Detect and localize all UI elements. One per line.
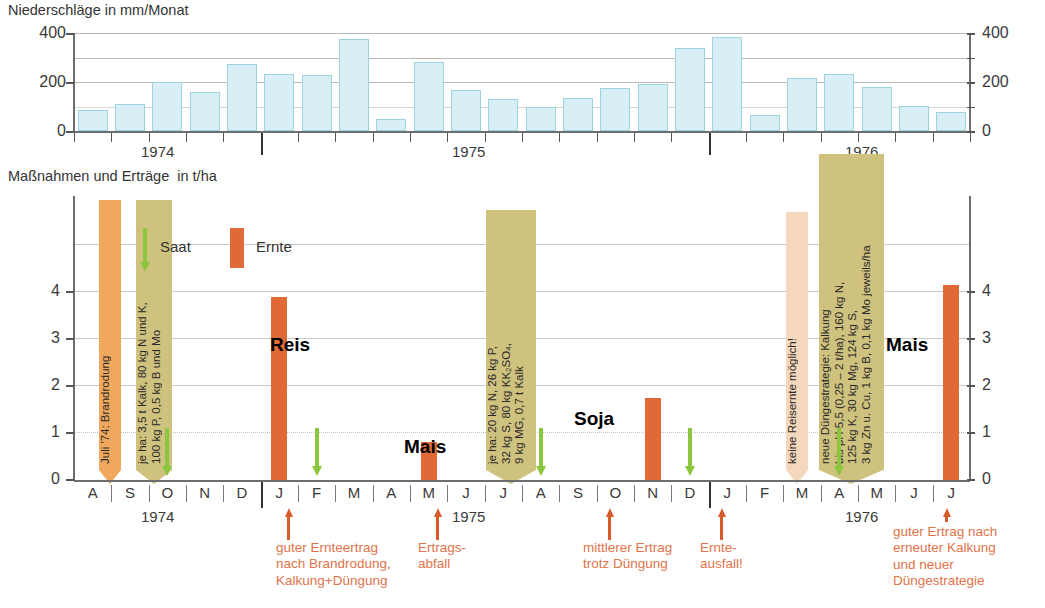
- precip-tick-300: [967, 58, 975, 60]
- precip-month-tick: [111, 133, 112, 142]
- banner-text-line: je ha: 20 kg N, 26 kg P,: [486, 216, 500, 464]
- callout-4: Ernte-ausfall!: [700, 540, 743, 573]
- banner-text-line: bis pH 5,5 (0,25 – 2 t/ha), 160 kg N,: [833, 160, 847, 464]
- callout-arrow-icon-3: [606, 508, 615, 540]
- precip-month-tick: [186, 133, 187, 142]
- yield-ytick-0-left: 0: [10, 470, 60, 488]
- month-separator: [298, 485, 299, 502]
- harvest-bar-mais: [943, 285, 959, 480]
- month-label-22: J: [895, 484, 932, 501]
- banner-text: keine Reisernte möglich!: [786, 218, 808, 464]
- precipitation-bar: [376, 119, 406, 131]
- month-label-0: A: [74, 484, 111, 501]
- month-separator: [447, 485, 448, 502]
- callout-3: mittlerer Ertragtrotz Düngung: [583, 540, 672, 573]
- callout-arrow-icon-2: [434, 508, 443, 540]
- precip-month-tick: [149, 133, 150, 142]
- precip-tick-200: [967, 82, 975, 84]
- yield-ytick-4-left: 4: [10, 282, 60, 300]
- precipitation-chart-title: Niederschläge in mm/Monat: [8, 2, 189, 18]
- seeding-arrow-icon: [834, 428, 844, 476]
- month-separator: [559, 485, 560, 502]
- precip-month-tick: [783, 133, 784, 142]
- precip-month-tick: [335, 133, 336, 142]
- month-separator: [746, 485, 747, 502]
- precipitation-bar: [563, 98, 593, 131]
- month-label-6: F: [298, 484, 335, 501]
- month-label-7: M: [335, 484, 372, 501]
- precip-month-tick: [895, 133, 896, 142]
- month-separator: [783, 485, 784, 502]
- yield-ytick-2-right: 2: [982, 376, 991, 394]
- month-label-9: M: [410, 484, 447, 501]
- precip-month-tick: [298, 133, 299, 142]
- year-divider-1975-1976: [709, 482, 711, 508]
- precip-month-tick: [373, 133, 374, 142]
- yield-year-1974: 1974: [141, 508, 174, 525]
- month-separator: [671, 485, 672, 502]
- precip-ytick-400-right: 400: [982, 24, 1009, 42]
- month-label-10: J: [447, 484, 484, 501]
- month-label-15: N: [634, 484, 671, 501]
- year-divider-1975-1976-top: [709, 133, 711, 155]
- precip-month-tick: [223, 133, 224, 142]
- precip-month-tick: [597, 133, 598, 142]
- precip-month-tick: [634, 133, 635, 142]
- precip-ytick-400-left: 400: [10, 24, 66, 42]
- callout-line: guter Ertrag nach: [893, 524, 997, 540]
- precip-tick-100: [967, 107, 975, 109]
- precip-month-tick: [821, 133, 822, 142]
- precip-month-tick: [522, 133, 523, 142]
- precip-month-tick: [410, 133, 411, 142]
- precipitation-bar: [152, 82, 182, 131]
- yield-ytick-2-left: 2: [10, 376, 60, 394]
- measure-banner-neue-duengestrategie: neue Düngestrategie: Kalkungbis pH 5,5 (…: [819, 154, 884, 484]
- precipitation-bar: [115, 104, 145, 131]
- month-label-2: O: [149, 484, 186, 501]
- month-label-11: J: [485, 484, 522, 501]
- banner-text-line: 125 kg K, 30 kg Mg, 124 kg S,: [846, 160, 860, 464]
- precip-month-tick: [485, 133, 486, 142]
- banner-text-line: neue Düngestrategie: Kalkung: [819, 160, 833, 464]
- month-label-5: J: [261, 484, 298, 501]
- month-separator: [821, 485, 822, 502]
- precip-month-tick: [447, 133, 448, 142]
- banner-text: Juli '74: Brandrodung: [99, 206, 121, 464]
- precipitation-bar: [638, 84, 668, 131]
- legend-saat-arrow-icon: [140, 228, 150, 272]
- callout-arrow-icon-4: [718, 508, 727, 540]
- precip-ytick-0-left: 0: [10, 122, 66, 140]
- banner-text-line: 32 kg S, 80 kg KK₂SO₄,: [500, 216, 514, 464]
- yield-year-1975: 1975: [452, 508, 485, 525]
- callout-line: guter Ernteertrag: [276, 540, 391, 556]
- precipitation-bar: [862, 87, 892, 131]
- precipitation-plot-area: [74, 33, 970, 131]
- yield-tick-0-l: [66, 479, 74, 481]
- legend-ernte-swatch: [230, 228, 244, 268]
- month-separator: [522, 485, 523, 502]
- precip-month-tick: [671, 133, 672, 142]
- precip-year-1975: 1975: [452, 143, 485, 160]
- legend-saat-label: Saat: [160, 238, 191, 255]
- callout-line: mittlerer Ertrag: [583, 540, 672, 556]
- month-label-17: J: [709, 484, 746, 501]
- month-label-8: A: [373, 484, 410, 501]
- month-separator: [149, 485, 150, 502]
- callout-2: Ertrags-abfall: [418, 540, 466, 573]
- precipitation-bar: [600, 88, 630, 131]
- seeding-arrow-icon: [685, 428, 695, 476]
- yield-tick-0-r: [967, 479, 975, 481]
- callout-line: und neuer: [893, 557, 997, 573]
- chart-root: Niederschläge in mm/Monat 400 200 0 400 …: [0, 0, 1045, 608]
- precipitation-bar: [936, 112, 966, 131]
- gridline-400: [74, 33, 970, 34]
- precip-ytick-0-right: 0: [982, 122, 991, 140]
- crop-label-reis-0: Reis: [270, 334, 310, 356]
- yield-tick-2-l: [66, 385, 74, 387]
- measure-banner-brandrodung: Juli '74: Brandrodung: [99, 200, 121, 484]
- precip-tick-0-l: [66, 131, 74, 133]
- month-axis: ASONDJFMAMJJASONDJFMAMJJ: [74, 482, 970, 508]
- precipitation-bar: [824, 74, 854, 131]
- precipitation-bar: [78, 110, 108, 131]
- month-separator: [597, 485, 598, 502]
